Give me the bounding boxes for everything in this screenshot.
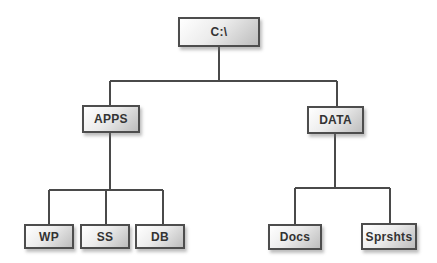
tree-node-root: C:\ — [178, 17, 260, 47]
tree-node-docs: Docs — [268, 224, 322, 250]
tree-node-data-label: DATA — [319, 113, 352, 127]
tree-node-wp-label: WP — [39, 230, 59, 244]
tree-node-root-label: C:\ — [211, 25, 228, 39]
tree-node-sprshts-label: Sprshts — [366, 230, 413, 244]
tree-node-db-label: DB — [151, 230, 169, 244]
tree-node-docs-label: Docs — [280, 230, 311, 244]
directory-tree-diagram: C:\ APPS DATA WP SS DB Docs Sprshts — [0, 0, 437, 263]
tree-node-wp: WP — [24, 224, 74, 249]
tree-node-db: DB — [135, 224, 185, 249]
tree-node-ss: SS — [80, 224, 130, 249]
tree-node-apps-label: APPS — [94, 112, 128, 126]
tree-node-apps: APPS — [82, 105, 140, 133]
tree-node-sprshts: Sprshts — [361, 223, 417, 250]
tree-node-ss-label: SS — [97, 230, 114, 244]
tree-node-data: DATA — [307, 106, 364, 134]
